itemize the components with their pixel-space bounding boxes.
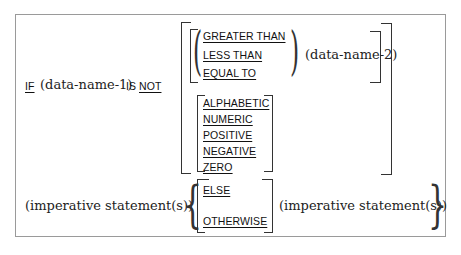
- outer-bracket-right: [391, 23, 392, 175]
- class-bracket-right-top: [264, 95, 272, 96]
- class-bracket-left-top: [197, 95, 205, 96]
- option-greater-than: GREATER THAN: [203, 30, 286, 42]
- right-brace-icon: }: [428, 175, 447, 235]
- if-keyword: IF: [25, 80, 35, 92]
- else-bracket-right-bottom: [264, 232, 272, 233]
- close-paren-icon: ): [290, 21, 299, 81]
- option-alphabetic: ALPHABETIC: [203, 97, 269, 109]
- imperative-statement-right: (imperative statement(s)): [279, 198, 447, 213]
- else-bracket-right: [272, 179, 273, 233]
- is-keyword: IS: [126, 80, 136, 92]
- open-paren-icon: (: [193, 21, 202, 81]
- option-equal-to: EQUAL TO: [203, 67, 256, 79]
- else-bracket-right-top: [262, 179, 272, 180]
- imperative-statement-left: (imperative statement(s)): [25, 198, 193, 213]
- relational-bracket-right-top: [370, 31, 380, 32]
- option-otherwise: OTHERWISE: [203, 215, 267, 227]
- option-less-than: LESS THAN: [203, 49, 262, 61]
- option-else: ELSE: [203, 184, 230, 196]
- option-negative: NEGATIVE: [203, 145, 256, 157]
- operand-data-name-1: (data-name-1): [40, 77, 132, 92]
- outer-bracket-right-top: [381, 23, 391, 24]
- outer-bracket-left: [181, 22, 182, 174]
- relational-bracket-left-bottom: [190, 82, 198, 83]
- option-positive: POSITIVE: [203, 129, 252, 141]
- left-brace-icon: {: [183, 175, 202, 235]
- outer-bracket-left-bottom: [181, 173, 191, 174]
- operand-data-name-2: (data-name-2): [305, 47, 397, 62]
- option-zero: ZERO: [203, 161, 233, 173]
- class-bracket-right: [272, 95, 273, 172]
- option-numeric: NUMERIC: [203, 113, 253, 125]
- outer-bracket-left-top: [181, 22, 191, 23]
- relational-bracket-right-bottom: [370, 82, 380, 83]
- relational-bracket-left: [190, 29, 191, 83]
- outer-bracket-right-bottom: [381, 174, 391, 175]
- class-bracket-left: [197, 95, 198, 172]
- not-keyword: NOT: [139, 80, 161, 92]
- class-bracket-right-bottom: [264, 171, 272, 172]
